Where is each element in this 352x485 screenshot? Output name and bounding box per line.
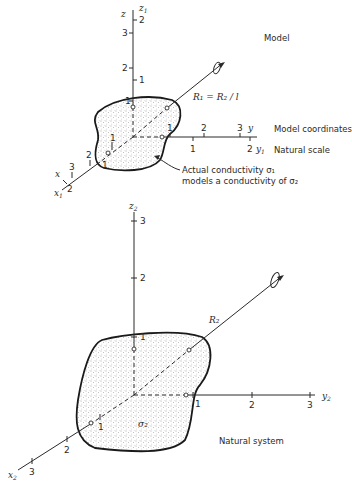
model-z-label: z: [120, 9, 126, 19]
natural-x-axis: [18, 423, 92, 470]
model-z-tick-2: 2: [122, 63, 128, 73]
model-radius-label: R₁ = R₂ / l: [192, 92, 239, 102]
natural-radius-line: [189, 276, 282, 350]
natural-radius-label: R₂: [208, 315, 220, 325]
model-y-tick-3: 3: [237, 123, 243, 133]
natural-z-tick-3: 3: [140, 216, 146, 226]
model-x1-label: x1: [54, 188, 63, 199]
model-z-tick-3: 3: [122, 28, 128, 38]
model-y-label: y: [247, 123, 254, 133]
model-x-tick-3: 3: [69, 162, 75, 172]
natural-system-title: Natural system: [219, 436, 284, 446]
natural-y-tick-3: 3: [307, 400, 313, 410]
model-panel: 3 2 1 2 1 z z1 1 2 3 y 1 2 y1 Model coor…: [54, 3, 352, 199]
model-y1-label: y1: [255, 144, 265, 155]
natural-scale-label: Natural scale: [274, 145, 330, 155]
model-x-tick-2: 2: [86, 150, 92, 160]
model-z1-tick-1: 1: [139, 75, 145, 85]
natural-y-tick-1: 1: [195, 399, 201, 409]
model-y1-tick-1: 1: [190, 144, 196, 154]
natural-z-label: z2: [128, 201, 138, 212]
natural-x-tick-1: 1: [98, 422, 104, 432]
annotation-line-2: models a conductivity of σ₂: [182, 176, 298, 186]
conductivity-model-diagram: 3 2 1 2 1 z z1 1 2 3 y 1 2 y1 Model coor…: [0, 0, 352, 485]
natural-y-tick-2: 2: [249, 400, 255, 410]
model-x-label: x: [55, 169, 60, 179]
natural-x-label: x2: [8, 470, 17, 481]
natural-z-tick-2: 2: [140, 273, 146, 283]
model-y1-tick-2: 2: [247, 144, 253, 154]
model-z-tick-1: 1: [125, 96, 131, 106]
model-y-tick-1: 1: [167, 123, 173, 133]
model-z1-tick-2: 2: [139, 15, 145, 25]
model-coordinates-label: Model coordinates: [274, 124, 352, 134]
annotation-leader-line: [158, 158, 180, 170]
natural-z-tick-1: 1: [140, 332, 146, 342]
model-title: Model: [264, 33, 290, 43]
annotation-line-1: Actual conductivity σ₁: [182, 165, 275, 175]
model-y-tick-2: 2: [201, 123, 207, 133]
model-z1-label: z1: [138, 3, 148, 14]
natural-sigma-label: σ₂: [138, 419, 148, 429]
natural-x-tick-3: 3: [29, 467, 35, 477]
natural-y-label: y2: [321, 391, 331, 402]
model-x1-tick-2: 2: [67, 184, 73, 194]
natural-current-loop-icon: [269, 271, 281, 288]
model-x1-tick-1: 1: [102, 160, 108, 170]
natural-radius-arrowhead: [277, 275, 284, 281]
natural-x-tick-2: 2: [64, 445, 70, 455]
model-x-tick-1: 1: [110, 133, 116, 143]
natural-panel: 3 2 1 z2 1 2 3 y2 Natural system 1 2 3 x…: [8, 201, 331, 481]
